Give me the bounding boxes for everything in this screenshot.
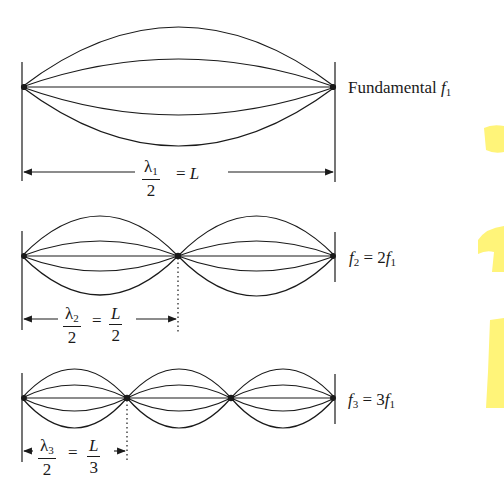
node-dot: [22, 85, 27, 90]
frequency-subscript: 2: [354, 256, 360, 268]
lambda-symbol: λ: [65, 304, 73, 323]
frequency-subscript: 1: [390, 398, 396, 410]
length-symbol: L: [190, 164, 199, 183]
denominator: 2: [68, 327, 77, 346]
harmonic-3-lambda-fraction: λ3 2: [35, 437, 59, 477]
harmonic-2-label: f2 = 2f1: [349, 249, 396, 268]
coefficient: 2: [377, 248, 386, 267]
lambda-subscript: 1: [152, 165, 158, 177]
harmonic-2-length-fraction: L 2: [106, 305, 125, 344]
length-symbol: L: [109, 305, 122, 325]
equals-sign: =: [176, 164, 186, 183]
frequency-subscript: 1: [446, 86, 452, 98]
lambda-subscript: 2: [73, 312, 79, 324]
harmonic-3-equals: =: [67, 444, 79, 461]
coefficient: 3: [376, 390, 385, 409]
harmonic-2-equals: =: [91, 312, 103, 329]
node-dot: [175, 253, 180, 258]
harmonic-1-wave: [22, 27, 336, 182]
label-text: Fundamental: [348, 78, 437, 97]
lambda-symbol: λ: [144, 157, 152, 176]
harmonic-1-label: Fundamental f1: [348, 79, 451, 98]
lambda-subscript: 3: [48, 444, 54, 456]
harmonic-3-length-fraction: L 3: [84, 437, 103, 476]
harmonic-1-equation-rhs: = L: [173, 165, 202, 182]
frequency-subscript: 1: [391, 256, 397, 268]
watermark-strokes: [478, 125, 504, 408]
lambda-symbol: λ: [40, 436, 48, 455]
node-dot: [228, 395, 233, 400]
denominator: 2: [43, 459, 52, 477]
harmonic-2-lambda-fraction: λ2 2: [60, 305, 84, 346]
denominator: 2: [111, 325, 120, 344]
harmonic-1-lambda-fraction: λ1 2: [139, 158, 163, 199]
denominator: 3: [89, 457, 98, 476]
length-symbol: L: [87, 437, 100, 457]
node-dot: [331, 85, 336, 90]
denominator: 2: [147, 180, 156, 199]
standing-waves-diagram: [0, 0, 504, 477]
equals-sign: =: [363, 248, 373, 267]
node-dot: [124, 395, 129, 400]
harmonic-3-label: f3 = 3f1: [348, 391, 395, 410]
frequency-subscript: 3: [353, 398, 359, 410]
equals-sign: =: [362, 390, 372, 409]
